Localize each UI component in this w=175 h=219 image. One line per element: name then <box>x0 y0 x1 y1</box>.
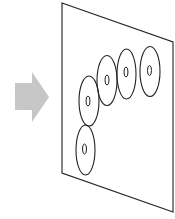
diagram-canvas <box>0 0 175 219</box>
diagram-svg <box>0 0 175 219</box>
right-arrow-icon <box>15 72 49 122</box>
tilted-plane <box>62 3 173 212</box>
